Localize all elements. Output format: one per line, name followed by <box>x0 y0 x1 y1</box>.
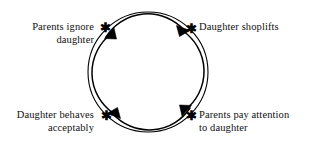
node-marker-parents-attention: ✱ <box>185 109 198 122</box>
node-label-daughter-behaves: Daughter behaves acceptably <box>2 109 94 134</box>
node-marker-daughter-shoplifts: ✱ <box>185 22 198 35</box>
node-label-parents-ignore: Parents ignore daughter <box>8 21 94 46</box>
node-marker-parents-ignore: ✱ <box>99 21 112 34</box>
diagram-canvas: ✱ ✱ ✱ ✱ Parents ignore daughter Daughter… <box>0 0 311 151</box>
node-marker-daughter-behaves: ✱ <box>100 109 113 122</box>
arrow-top <box>106 14 190 37</box>
node-label-daughter-shoplifts: Daughter shoplifts <box>199 21 307 34</box>
arrow-bottom <box>107 108 190 130</box>
node-label-parents-attention: Parents pay attention to daughter <box>199 109 309 134</box>
